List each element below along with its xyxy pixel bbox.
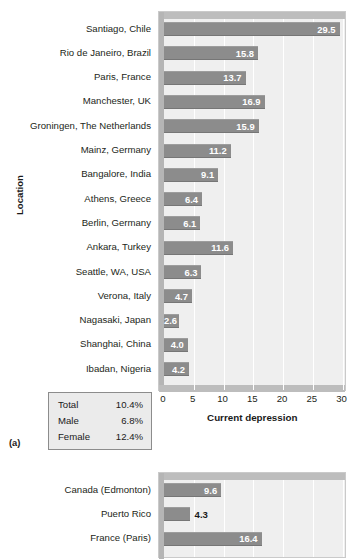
bar-value-label: 6.1	[164, 219, 196, 229]
summary-value-male: 6.8%	[121, 413, 143, 428]
bar-value-label: 9.1	[164, 170, 214, 180]
plot-area-b: 9.64.316.4	[158, 472, 346, 558]
bar-value-label: 11.6	[164, 243, 229, 253]
bar-value-label: 9.6	[164, 486, 217, 496]
x-tick-label: 30	[330, 394, 351, 404]
summary-legend-box: Total 10.4% Male 6.8% Female 12.4%	[48, 392, 152, 450]
category-label: Shanghai, China	[0, 339, 151, 349]
summary-value-total: 10.4%	[116, 397, 143, 412]
x-tick-label: 0	[151, 394, 175, 404]
gridline	[343, 19, 344, 390]
bar-value-label: 16.4	[164, 534, 258, 544]
y-axis-title-a: Location	[14, 175, 25, 215]
panel-label-a: (a)	[9, 437, 20, 448]
bar-value-label: 2.6	[164, 316, 175, 326]
summary-key-male: Male	[58, 413, 79, 428]
bar-value-label: 4.7	[164, 292, 188, 302]
bar-value-label: 6.4	[164, 195, 198, 205]
plot-top-strip-b	[159, 473, 345, 480]
plot-bottom-strip-a	[159, 385, 345, 392]
chart-current-depression-location: 29.515.813.716.915.911.29.16.46.111.66.3…	[0, 0, 351, 460]
summary-key-female: Female	[58, 429, 90, 444]
x-tick-label: 10	[211, 394, 235, 404]
plot-area-a: 29.515.813.716.915.911.29.16.46.111.66.3…	[158, 11, 346, 391]
category-label: Groningen, The Netherlands	[0, 121, 151, 131]
category-label: Manchester, UK	[0, 96, 151, 106]
bar-value-label: 4.3	[195, 510, 208, 520]
category-label: Paris, France	[0, 72, 151, 82]
gridline	[283, 480, 284, 557]
bar	[164, 507, 190, 521]
summary-key-total: Total	[58, 397, 78, 412]
x-tick-label: 25	[300, 394, 324, 404]
category-label: Puerto Rico	[0, 509, 151, 519]
gridline	[343, 480, 344, 557]
gridline	[313, 480, 314, 557]
bar-value-label: 29.5	[164, 25, 336, 35]
bar-value-label: 15.8	[164, 49, 254, 59]
category-label: Seattle, WA, USA	[0, 267, 151, 277]
category-label: Verona, Italy	[0, 291, 151, 301]
x-axis-title-a: Current depression	[163, 412, 342, 423]
category-label: France (Paris)	[0, 533, 151, 543]
category-label: Canada (Edmonton)	[0, 485, 151, 495]
category-label: Nagasaki, Japan	[0, 315, 151, 325]
summary-row: Male 6.8%	[58, 413, 143, 428]
bar-value-label: 4.0	[164, 340, 184, 350]
gridline	[283, 19, 284, 390]
category-label: Ibadan, Nigeria	[0, 364, 151, 374]
bar-value-label: 16.9	[164, 97, 261, 107]
x-tick-label: 20	[270, 394, 294, 404]
bar-value-label: 6.3	[164, 268, 197, 278]
x-tick-label: 5	[181, 394, 205, 404]
summary-row: Total 10.4%	[58, 397, 143, 412]
bar-value-label: 11.2	[164, 146, 227, 156]
category-label: Ankara, Turkey	[0, 242, 151, 252]
bar-value-label: 4.2	[164, 365, 185, 375]
category-label: Berlin, Germany	[0, 218, 151, 228]
chart-current-depression-country: 9.64.316.4 Canada (Edmonton)Puerto RicoF…	[0, 460, 351, 545]
gridline	[253, 19, 254, 390]
x-tick-label: 15	[240, 394, 264, 404]
summary-value-female: 12.4%	[116, 429, 143, 444]
bar-value-label: 15.9	[164, 122, 255, 132]
bar-value-label: 13.7	[164, 73, 242, 83]
plot-top-strip-a	[159, 12, 345, 19]
summary-row: Female 12.4%	[58, 429, 143, 444]
gridline	[313, 19, 314, 390]
category-label: Santiago, Chile	[0, 24, 151, 34]
category-label: Rio de Janeiro, Brazil	[0, 48, 151, 58]
category-label: Mainz, Germany	[0, 145, 151, 155]
